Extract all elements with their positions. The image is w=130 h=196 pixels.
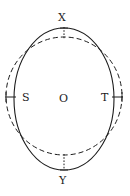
vertex-label-s: S [22, 92, 30, 103]
center-label-o: O [59, 93, 68, 104]
vertex-label-x: X [58, 12, 66, 23]
geometry-figure: X Y S T O [0, 0, 130, 196]
vertex-label-t: T [101, 92, 108, 103]
vertex-label-y: Y [59, 175, 66, 186]
